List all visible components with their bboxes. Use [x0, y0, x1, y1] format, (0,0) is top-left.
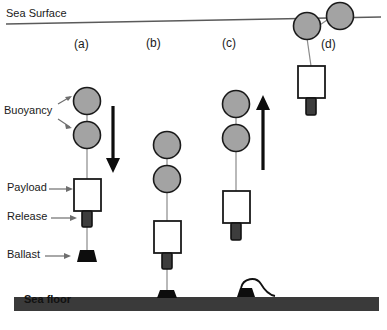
panel-d-tether-upper — [307, 38, 311, 66]
panel-c-buoyancy-sphere-top — [223, 91, 250, 118]
panel-d-buoyancy-sphere-upper — [327, 3, 354, 30]
release-label: Release — [7, 211, 47, 222]
buoyancy-label: Buoyancy — [4, 105, 52, 116]
panel-a-release-unit — [82, 211, 92, 227]
panel-c-payload-box — [223, 191, 250, 223]
panel-d-mooring — [294, 3, 354, 116]
buoyancy-upper-pointer — [58, 96, 72, 104]
panel-d-payload-box — [298, 66, 325, 98]
panel-a-descent-arrow — [106, 106, 120, 173]
panel-a-buoyancy-sphere-top — [74, 88, 101, 115]
payload-pointer — [49, 186, 73, 192]
panel-label-d: (d) — [321, 38, 336, 50]
panel-c-release-unit — [231, 223, 241, 240]
panel-b-buoyancy-sphere-top — [154, 132, 181, 159]
callout-arrows — [45, 96, 77, 259]
panel-d-buoyancy-sphere-lower — [294, 13, 321, 40]
panel-b-buoyancy-sphere-bottom — [154, 166, 181, 193]
panel-c-abandoned-ballast — [237, 288, 255, 297]
ballast-pointer — [45, 253, 71, 259]
panel-b-mooring — [154, 132, 182, 299]
panel-b-ballast — [157, 290, 177, 298]
panel-a-payload-box — [74, 179, 101, 211]
panel-d-release-unit — [306, 98, 316, 115]
sea-floor-label: Sea floor — [24, 294, 71, 305]
panel-label-b: (b) — [146, 37, 161, 49]
panel-c-mooring — [223, 91, 276, 298]
panel-c-buoyancy-sphere-bottom — [223, 125, 250, 152]
panel-a-buoyancy-sphere-bottom — [74, 122, 101, 149]
panel-b-release-unit — [162, 253, 172, 269]
panel-b-payload-box — [154, 221, 181, 253]
mooring-deployment-diagram: Sea Surface Sea floor Buoyancy Payload R… — [0, 0, 387, 330]
sea-surface-label: Sea Surface — [6, 8, 67, 19]
panel-a-ballast — [77, 250, 97, 262]
panel-a-mooring — [74, 88, 121, 263]
release-pointer — [51, 215, 77, 221]
panel-label-c: (c) — [222, 37, 236, 49]
ballast-label: Ballast — [7, 249, 40, 260]
panel-c-ascent-arrow — [256, 95, 270, 170]
panel-label-a: (a) — [74, 38, 89, 50]
buoyancy-lower-pointer — [58, 119, 72, 129]
payload-label: Payload — [7, 182, 47, 193]
